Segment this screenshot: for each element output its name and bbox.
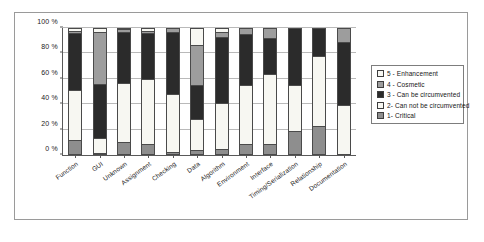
legend-swatch-icon — [377, 81, 384, 88]
bar-segment[interactable] — [239, 85, 253, 143]
bar-column[interactable] — [166, 28, 180, 155]
legend-item-label: 4 - Cosmetic — [387, 81, 425, 88]
legend-item[interactable]: 4 - Cosmetic — [377, 81, 459, 88]
y-axis-tick-label: 40 % — [41, 94, 58, 101]
bar-segment[interactable] — [239, 34, 253, 85]
bar-segment[interactable] — [166, 94, 180, 152]
bar-segment[interactable] — [68, 33, 82, 90]
x-axis-tick-mark — [75, 155, 76, 158]
bar-segment[interactable] — [68, 90, 82, 140]
bar-column[interactable] — [312, 28, 326, 155]
bar-column[interactable] — [141, 28, 155, 155]
bar-segment[interactable] — [239, 144, 253, 155]
bar-segment[interactable] — [117, 32, 131, 83]
bar-segment[interactable] — [337, 28, 351, 42]
bar-segment[interactable] — [312, 28, 326, 56]
x-axis-tick-mark — [100, 155, 101, 158]
bar-segment[interactable] — [312, 126, 326, 155]
legend-item[interactable]: 3 - Can be circumvented — [377, 91, 459, 98]
x-axis-tick-mark — [295, 155, 296, 158]
bar-segment[interactable] — [141, 33, 155, 79]
bar-column[interactable] — [93, 28, 107, 155]
x-axis-label: Checking — [150, 160, 177, 182]
y-axis-tick-label: 0 % — [45, 145, 58, 152]
bar-column[interactable] — [215, 28, 229, 155]
x-axis-tick-mark — [148, 155, 149, 158]
x-axis-label: GUI — [90, 160, 104, 173]
x-axis-tick-mark — [222, 155, 223, 158]
legend-item-label: 5 - Enhancement — [387, 70, 438, 77]
bar-column[interactable] — [337, 28, 351, 155]
bar-segment[interactable] — [93, 138, 107, 153]
legend-item-label: 2- Can not be circumvented — [387, 102, 469, 109]
bar-column[interactable] — [288, 28, 302, 155]
bar-segment[interactable] — [263, 38, 277, 74]
bar-segment[interactable] — [93, 84, 107, 138]
x-axis-tick-mark — [270, 155, 271, 158]
x-axis-label: Data — [186, 160, 202, 174]
y-axis-tick-label: 80 % — [41, 43, 58, 50]
y-axis-tick-label: 60 % — [41, 68, 58, 75]
bar-segment[interactable] — [215, 37, 229, 103]
x-axis-tick-mark — [246, 155, 247, 158]
bar-segment[interactable] — [263, 28, 277, 38]
bar-column[interactable] — [190, 28, 204, 155]
bar-segment[interactable] — [288, 131, 302, 155]
plot-area: 0 %20 %40 %60 %80 %100 % — [62, 28, 356, 156]
chart-legend: 5 - Enhancement4 - Cosmetic3 - Can be ci… — [371, 65, 464, 124]
bar-segment[interactable] — [68, 140, 82, 155]
legend-item[interactable]: 1- Critical — [377, 112, 459, 119]
bar-segment[interactable] — [117, 142, 131, 155]
chart-figure: 0 %20 %40 %60 %80 %100 % FunctionGUIUnkn… — [14, 12, 468, 220]
bar-segment[interactable] — [190, 119, 204, 149]
bar-segment[interactable] — [141, 144, 155, 155]
x-axis-tick-mark — [319, 155, 320, 158]
bar-column[interactable] — [263, 28, 277, 155]
legend-item[interactable]: 2- Can not be circumvented — [377, 102, 459, 109]
x-axis-label: Function — [54, 160, 79, 181]
legend-swatch-icon — [377, 102, 384, 109]
x-axis-tick-mark — [124, 155, 125, 158]
bar-segment[interactable] — [215, 103, 229, 149]
x-axis-tick-mark — [173, 155, 174, 158]
bar-segment[interactable] — [337, 42, 351, 106]
bar-segment[interactable] — [263, 144, 277, 155]
bar-segment[interactable] — [93, 32, 107, 84]
bar-segment[interactable] — [190, 45, 204, 86]
y-axis-tick-label: 100 % — [37, 18, 58, 25]
x-axis-tick-mark — [197, 155, 198, 158]
bar-column[interactable] — [117, 28, 131, 155]
y-axis-tick-label: 20 % — [41, 119, 58, 126]
bar-segment[interactable] — [166, 32, 180, 94]
bar-segment[interactable] — [288, 85, 302, 131]
legend-swatch-icon — [377, 91, 384, 98]
bar-segment[interactable] — [288, 28, 302, 85]
bar-segment[interactable] — [141, 79, 155, 144]
bar-column[interactable] — [239, 28, 253, 155]
x-axis-labels: FunctionGUIUnknownAssignmentCheckingData… — [62, 160, 356, 215]
legend-swatch-icon — [377, 70, 384, 77]
x-axis-tick-mark — [344, 155, 345, 158]
bar-segment[interactable] — [117, 83, 131, 143]
bar-segment[interactable] — [337, 105, 351, 155]
bar-segment[interactable] — [190, 85, 204, 119]
bar-segment[interactable] — [312, 56, 326, 126]
bar-series-group — [63, 28, 356, 155]
bar-segment[interactable] — [190, 28, 204, 45]
legend-item[interactable]: 5 - Enhancement — [377, 70, 459, 77]
legend-item-label: 3 - Can be circumvented — [387, 91, 460, 98]
legend-swatch-icon — [377, 112, 384, 119]
bar-column[interactable] — [68, 28, 82, 155]
legend-item-label: 1- Critical — [387, 112, 416, 119]
bar-segment[interactable] — [263, 74, 277, 144]
